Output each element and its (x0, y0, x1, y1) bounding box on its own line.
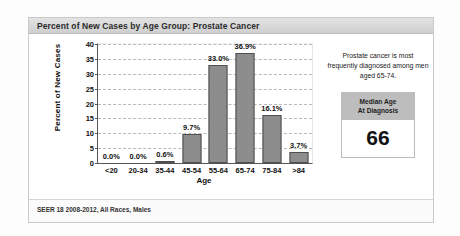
bar-group: 3.7%>84 (285, 44, 312, 163)
source-note: SEER 18 2008-2012, All Races, Males (37, 206, 151, 213)
card-body: Percent of New Cases 0510152025303540 0.… (29, 35, 433, 195)
median-age-value: 66 (342, 120, 414, 157)
y-tick-label: 25 (86, 84, 94, 93)
chart-card: Percent of New Cases by Age Group: Prost… (28, 17, 434, 223)
bar-value-label: 16.1% (261, 104, 282, 113)
bar (236, 53, 255, 163)
bar-value-label: 0.6% (156, 150, 173, 159)
x-tick-label: 20-34 (129, 166, 148, 175)
y-tick-label: 10 (86, 129, 94, 138)
bar (155, 161, 174, 163)
bar-value-label: 36.9% (234, 42, 255, 51)
x-axis-title: Age (97, 176, 311, 185)
x-tick-label: <20 (105, 166, 118, 175)
screenshot-root: Percent of New Cases by Age Group: Prost… (0, 0, 460, 236)
y-tick-label: 30 (86, 69, 94, 78)
median-age-header-line2: At Diagnosis (344, 106, 412, 116)
y-tick-label: 20 (86, 99, 94, 108)
y-tick-label: 15 (86, 114, 94, 123)
bar-chart: Percent of New Cases 0510152025303540 0.… (35, 39, 317, 191)
bar-group: 0.0%20-34 (125, 44, 152, 163)
side-panel-note: Prostate cancer is most frequently diagn… (327, 51, 429, 82)
bar-group: 0.6%35-44 (152, 44, 179, 163)
y-tick-label: 35 (86, 54, 94, 63)
bar-value-label: 9.7% (183, 123, 200, 132)
bar-value-label: 0.0% (130, 152, 147, 161)
bar (182, 134, 201, 163)
y-axis-title: Percent of New Cases (53, 40, 62, 136)
bar-value-label: 33.0% (208, 54, 229, 63)
x-tick-label: 45-54 (182, 166, 201, 175)
bar-group: 36.9%65-74 (232, 44, 259, 163)
bar-group: 16.1%75-84 (259, 44, 286, 163)
side-panel: Prostate cancer is most frequently diagn… (327, 51, 429, 158)
bar-value-label: 0.0% (103, 152, 120, 161)
x-tick-label: 75-84 (262, 166, 281, 175)
bar (289, 152, 308, 163)
y-tick-label: 40 (86, 40, 94, 49)
median-age-box-header: Median Age At Diagnosis (342, 93, 414, 120)
card-title: Percent of New Cases by Age Group: Prost… (29, 18, 433, 34)
bar (262, 115, 281, 163)
x-tick-label: 55-64 (209, 166, 228, 175)
bar (209, 65, 228, 163)
bar-group: 33.0%55-64 (205, 44, 232, 163)
card-footer: SEER 18 2008-2012, All Races, Males (29, 199, 433, 222)
bar-series: 0.0%<200.0%20-340.6%35-449.7%45-5433.0%5… (98, 44, 312, 163)
y-tick-label: 0 (90, 159, 94, 168)
x-tick-label: 65-74 (236, 166, 255, 175)
y-tick-label: 5 (90, 144, 94, 153)
median-age-box: Median Age At Diagnosis 66 (341, 92, 415, 158)
bar-value-label: 3.7% (290, 141, 307, 150)
plot-area: 0510152025303540 0.0%<200.0%20-340.6%35-… (97, 43, 313, 164)
y-tick-mark (95, 163, 98, 164)
x-tick-label: 35-44 (155, 166, 174, 175)
bar-group: 0.0%<20 (98, 44, 125, 163)
bar-group: 9.7%45-54 (178, 44, 205, 163)
median-age-header-line1: Median Age (344, 97, 412, 107)
x-tick-label: >84 (292, 166, 305, 175)
